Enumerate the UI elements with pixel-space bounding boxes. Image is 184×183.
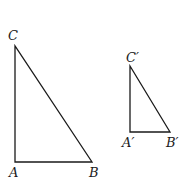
vertex-label-a: A (8, 165, 18, 180)
triangle-abc (15, 46, 92, 162)
similar-triangles-diagram: C A B C′ A′ B′ (0, 0, 184, 183)
vertex-label-c: C (8, 28, 18, 43)
vertex-label-c-prime: C′ (126, 50, 139, 65)
triangle-a-prime-b-prime-c-prime (130, 66, 170, 132)
vertex-label-b: B (88, 165, 99, 180)
vertex-label-b-prime: B′ (165, 135, 179, 150)
vertex-label-a-prime: A′ (121, 135, 134, 150)
